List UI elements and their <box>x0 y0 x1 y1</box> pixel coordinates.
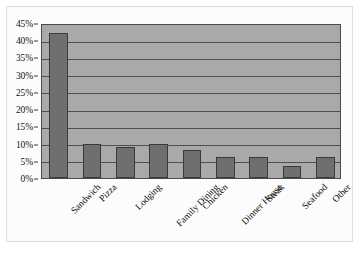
y-axis-tick-label: 0% <box>21 174 33 184</box>
x-axis-tick-label: Seafood <box>300 182 329 211</box>
y-axis-tick-label: 45% <box>16 19 33 29</box>
bar-chicken <box>183 150 202 178</box>
y-axis-tick-mark <box>34 127 38 128</box>
bar-steak <box>249 157 268 178</box>
bar-sandwich <box>49 33 68 178</box>
bar-seafood <box>283 166 302 178</box>
y-axis-tick-mark <box>34 41 38 42</box>
y-axis-tick-mark <box>34 24 38 25</box>
y-axis: 0%5%10%15%20%25%30%35%40%45% <box>0 24 38 179</box>
bars-group <box>42 25 340 178</box>
x-axis-tick-label: Pizza <box>97 182 119 204</box>
y-axis-tick-label: 20% <box>16 105 33 115</box>
y-axis-tick-label: 30% <box>16 71 33 81</box>
y-axis-tick-mark <box>34 58 38 59</box>
y-axis-tick-mark <box>34 161 38 162</box>
plot-area <box>41 24 341 179</box>
y-axis-tick-mark <box>34 75 38 76</box>
x-axis-tick-label: Sandwich <box>69 182 103 216</box>
y-axis-tick-label: 40% <box>16 36 33 46</box>
bar-lodging <box>116 147 135 178</box>
x-axis-tick-label: Steak <box>264 182 286 204</box>
bar-other <box>316 157 335 178</box>
y-axis-tick-label: 35% <box>16 53 33 63</box>
y-axis-tick-mark <box>34 144 38 145</box>
x-axis-tick-label: Lodging <box>134 182 164 212</box>
bar-chart-figure: 0%5%10%15%20%25%30%35%40%45% SandwichPiz… <box>0 0 360 259</box>
bar-pizza <box>83 144 102 178</box>
y-axis-tick-label: 10% <box>16 140 33 150</box>
bar-family-dining <box>149 144 168 178</box>
bar-dinner-house <box>216 157 235 178</box>
y-axis-tick-label: 5% <box>21 157 33 167</box>
y-axis-tick-mark <box>34 92 38 93</box>
x-axis: SandwichPizzaLodgingFamily DiningChicken… <box>41 179 341 249</box>
y-axis-tick-mark <box>34 110 38 111</box>
y-axis-tick-label: 15% <box>16 122 33 132</box>
y-axis-tick-label: 25% <box>16 88 33 98</box>
y-axis-tick-mark <box>34 179 38 180</box>
